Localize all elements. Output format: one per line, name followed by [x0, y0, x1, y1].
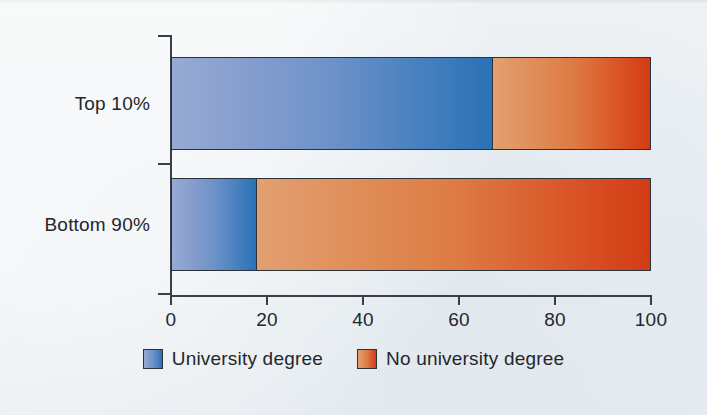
- x-axis-tick-label: 0: [166, 309, 177, 331]
- x-axis-tick: [362, 295, 364, 305]
- blue-gradient-swatch-icon: [143, 349, 163, 369]
- x-axis-tick-label: 100: [635, 309, 668, 331]
- bar-segment-university-degree: [172, 58, 492, 149]
- plot-area: 0 20 40 60 80 100 Top 10% Bottom 90%: [171, 35, 651, 295]
- x-axis-tick: [458, 295, 460, 305]
- legend-item-no-university-degree: No university degree: [357, 348, 564, 370]
- x-axis-tick-label: 60: [448, 309, 470, 331]
- chart-legend: University degree No university degree: [0, 348, 707, 370]
- x-axis-tick: [170, 295, 172, 305]
- x-axis-tick: [650, 295, 652, 305]
- legend-label: University degree: [172, 348, 323, 370]
- x-axis-tick-label: 40: [352, 309, 374, 331]
- bar-segment-university-degree: [172, 179, 256, 270]
- x-axis-tick: [266, 295, 268, 305]
- stacked-bar-top-10: Top 10%: [171, 57, 651, 150]
- bar-segment-no-university-degree: [492, 58, 650, 149]
- category-label: Bottom 90%: [45, 214, 151, 236]
- legend-label: No university degree: [386, 348, 564, 370]
- y-axis-tick: [158, 163, 171, 165]
- stacked-bar-bottom-90: Bottom 90%: [171, 178, 651, 271]
- category-label: Top 10%: [75, 93, 150, 115]
- chart-figure: 0 20 40 60 80 100 Top 10% Bottom 90% Uni…: [0, 0, 707, 415]
- y-axis-tick: [158, 35, 171, 37]
- orange-gradient-swatch-icon: [357, 349, 377, 369]
- x-axis-tick-label: 80: [544, 309, 566, 331]
- bar-segment-no-university-degree: [256, 179, 650, 270]
- x-axis-tick-label: 20: [256, 309, 278, 331]
- legend-item-university-degree: University degree: [143, 348, 323, 370]
- x-axis-line: [170, 295, 652, 297]
- x-axis-tick: [554, 295, 556, 305]
